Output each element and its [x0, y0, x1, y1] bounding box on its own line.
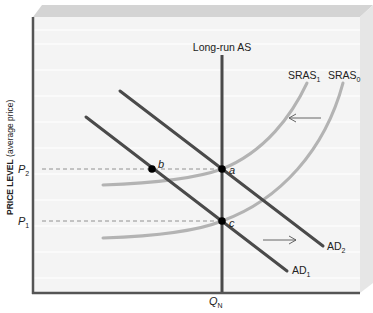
p2-tick-label: P2 [18, 163, 29, 177]
sras0-label: SRAS0 [328, 69, 361, 83]
qn-sub: N [218, 302, 223, 309]
ad1-label-main: AD [292, 264, 307, 276]
box-top-bevel [33, 5, 373, 17]
sras1-label: SRAS1 [288, 69, 321, 83]
ad1-label-sub: 1 [307, 271, 311, 278]
ad2-label-main: AD [327, 240, 342, 252]
sras0-label-main: SRAS [328, 69, 357, 81]
y-axis-title-rest: (average price) [5, 100, 15, 160]
sras0-label-sub: 0 [357, 76, 361, 83]
p2-sub: 2 [25, 170, 29, 177]
point-b-label: b [158, 158, 164, 170]
ad2-label-sub: 2 [342, 247, 346, 254]
y-axis-title: PRICE LEVEL (average price) [5, 100, 15, 215]
lras-label: Long-run AS [193, 41, 251, 53]
sras1-label-sub: 1 [317, 76, 321, 83]
p1-tick-label: P1 [18, 215, 29, 229]
p1-sub: 1 [25, 222, 29, 229]
point-c-label: c [229, 217, 235, 229]
ad-as-diagram: a b c Long-run AS SRAS1 SRAS0 AD2 AD1 P2… [0, 0, 373, 313]
sras1-label-main: SRAS [288, 69, 317, 81]
point-c-dot [218, 217, 226, 225]
point-a-dot [218, 165, 226, 173]
qn-tick-label: QN [209, 295, 223, 309]
point-b-dot [148, 165, 156, 173]
y-axis-title-bold: PRICE LEVEL [5, 159, 15, 215]
box-right-bevel [360, 5, 373, 293]
point-a-label: a [229, 164, 235, 176]
